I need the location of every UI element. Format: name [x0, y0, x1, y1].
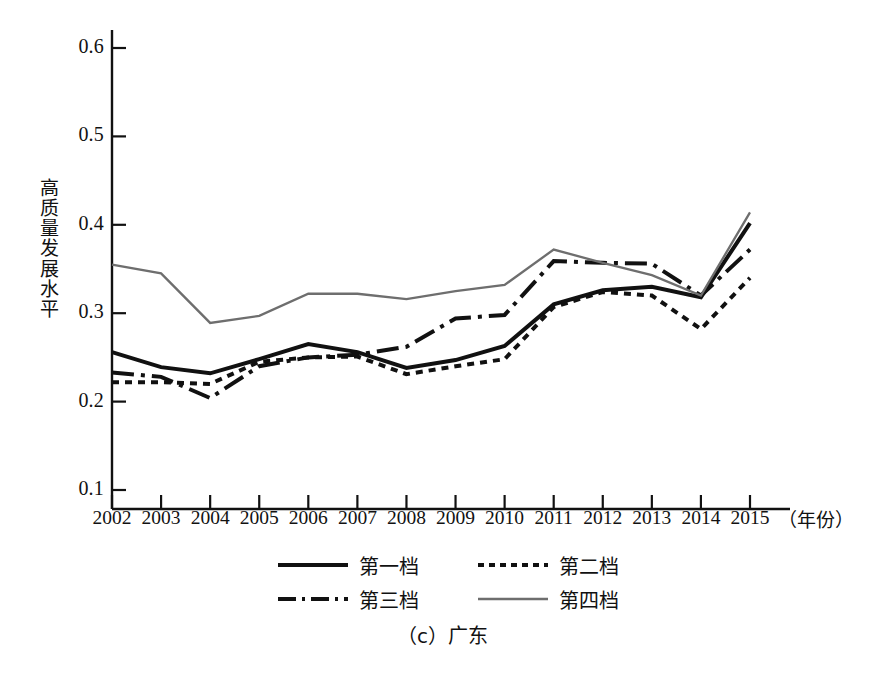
- legend-label-fourth: 第四档: [559, 585, 619, 614]
- data-series-group: [112, 212, 750, 398]
- axis-lines: [112, 30, 790, 509]
- y-axis-title-char: 质: [36, 198, 62, 218]
- legend-swatch-dotted-icon: [476, 557, 550, 573]
- legend-label-second: 第二档: [559, 551, 619, 580]
- legend-label-first: 第一档: [359, 551, 419, 580]
- series-line-第三档: [112, 250, 750, 399]
- y-tick-label: 0.6: [44, 35, 104, 58]
- figure-guangdong: 0.60.50.40.30.20.1 200220032004200520062…: [0, 0, 885, 690]
- x-axis-unit-label: （年份）: [778, 505, 854, 532]
- y-tick-label: 0.2: [44, 389, 104, 412]
- y-axis-title-char: 量: [36, 218, 62, 238]
- y-axis-title: 高质量发展水平: [36, 178, 62, 319]
- figure-caption: （c）广东: [0, 620, 885, 649]
- y-axis-title-char: 高: [36, 178, 62, 198]
- legend-swatch-gray-icon: [476, 591, 550, 607]
- y-axis-title-char: 水: [36, 279, 62, 299]
- legend-item-third: 第三档: [276, 585, 476, 614]
- x-tick-label: 2015: [720, 507, 780, 529]
- y-tick-label: 0.1: [44, 477, 104, 500]
- legend-item-first: 第一档: [276, 551, 476, 580]
- y-tick-marks: [112, 48, 126, 490]
- legend-swatch-dashdot-icon: [276, 591, 350, 607]
- legend-label-third: 第三档: [359, 585, 419, 614]
- chart-legend: 第一档 第二档 第三档 第四档: [276, 548, 676, 616]
- y-axis-title-char: 平: [36, 299, 62, 319]
- legend-row-2: 第三档 第四档: [276, 582, 676, 616]
- y-tick-label: 0.5: [44, 123, 104, 146]
- legend-item-second: 第二档: [476, 551, 676, 580]
- legend-row-1: 第一档 第二档: [276, 548, 676, 582]
- legend-item-fourth: 第四档: [476, 585, 676, 614]
- y-axis-title-char: 发: [36, 238, 62, 258]
- legend-swatch-solid-icon: [276, 557, 350, 573]
- y-axis-title-char: 展: [36, 259, 62, 279]
